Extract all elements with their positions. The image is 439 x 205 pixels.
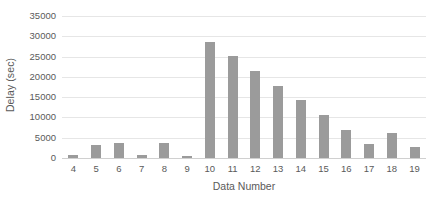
x-tick-label: 12 <box>244 162 267 178</box>
y-tick-label: 0 <box>51 153 56 163</box>
bar <box>273 86 283 158</box>
bar-slot <box>267 16 290 158</box>
bar <box>114 143 124 158</box>
x-tick-label: 10 <box>199 162 222 178</box>
x-tick-label: 5 <box>85 162 108 178</box>
y-axis-title-label: Delay (sec) <box>4 58 16 112</box>
bar <box>410 147 420 158</box>
bar-slot <box>108 16 131 158</box>
bar-slot <box>153 16 176 158</box>
bar-slot <box>199 16 222 158</box>
x-tick-label: 17 <box>358 162 381 178</box>
y-tick-label: 25000 <box>30 52 56 62</box>
y-axis-title: Delay (sec) <box>2 0 18 170</box>
x-axis-tick-labels: 45678910111213141516171819 <box>62 162 426 178</box>
x-tick-label: 18 <box>381 162 404 178</box>
y-tick-label: 30000 <box>30 32 56 42</box>
bar-chart: Delay (sec) 0500010000150002000025000300… <box>0 0 439 205</box>
bar-slot <box>312 16 335 158</box>
x-tick-label: 13 <box>267 162 290 178</box>
x-tick-label: 14 <box>290 162 313 178</box>
y-tick-label: 5000 <box>35 133 56 143</box>
bar <box>68 155 78 158</box>
x-tick-label: 7 <box>130 162 153 178</box>
bar-slot <box>221 16 244 158</box>
y-tick-label: 35000 <box>30 11 56 21</box>
y-axis-tick-labels: 05000100001500020000250003000035000 <box>18 0 60 170</box>
bar-slot <box>381 16 404 158</box>
bar-slot <box>244 16 267 158</box>
bar <box>91 145 101 158</box>
x-tick-label: 4 <box>62 162 85 178</box>
y-tick-label: 20000 <box>30 72 56 82</box>
bar <box>296 100 306 158</box>
x-tick-label: 19 <box>403 162 426 178</box>
bar <box>250 71 260 158</box>
bar-slot <box>290 16 313 158</box>
x-tick-label: 11 <box>221 162 244 178</box>
bar-slot <box>176 16 199 158</box>
bar <box>341 130 351 158</box>
bar-slot <box>403 16 426 158</box>
plot-area <box>62 16 426 158</box>
bar-slot <box>358 16 381 158</box>
bar <box>319 115 329 158</box>
x-axis-title: Data Number <box>62 180 426 192</box>
bar <box>182 156 192 158</box>
bar-slot <box>62 16 85 158</box>
x-tick-label: 9 <box>176 162 199 178</box>
bars-layer <box>62 16 426 158</box>
bar <box>137 155 147 158</box>
x-tick-label: 16 <box>335 162 358 178</box>
y-tick-label: 10000 <box>30 113 56 123</box>
bar <box>205 42 215 158</box>
bar <box>159 143 169 158</box>
y-tick-label: 15000 <box>30 92 56 102</box>
x-tick-label: 15 <box>312 162 335 178</box>
gridline <box>62 158 426 159</box>
bar <box>387 133 397 158</box>
bar <box>364 144 374 158</box>
x-tick-label: 8 <box>153 162 176 178</box>
bar-slot <box>130 16 153 158</box>
x-tick-label: 6 <box>108 162 131 178</box>
bar <box>228 56 238 158</box>
bar-slot <box>335 16 358 158</box>
bar-slot <box>85 16 108 158</box>
